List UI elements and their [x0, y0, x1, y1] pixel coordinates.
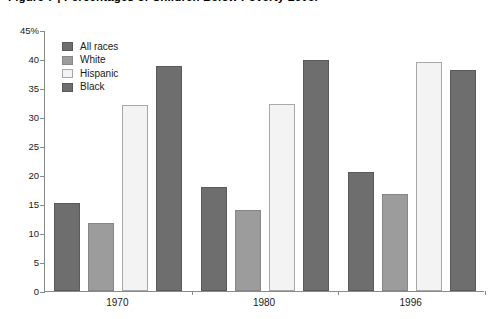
bar-hispanic-1996 — [416, 62, 442, 291]
y-axis-tick-mark — [40, 147, 45, 148]
bar-black-1970 — [156, 66, 182, 291]
y-axis-tick-mark — [40, 205, 45, 206]
bar-all-races-1996 — [348, 172, 374, 291]
legend-item-black[interactable]: Black — [62, 81, 118, 95]
y-axis-tick-label: 45% — [1, 26, 39, 36]
y-axis-tick-label: 25 — [1, 142, 39, 152]
legend-item-label: All races — [80, 42, 118, 52]
y-axis-tick-label: 5 — [1, 258, 39, 268]
y-axis-tick-label: 20 — [1, 171, 39, 181]
page-title: Figure 7 | Percentages of Children Below… — [8, 0, 318, 3]
y-axis-tick-mark — [40, 31, 45, 32]
legend-item-label: White — [80, 55, 106, 65]
x-axis-label-1980: 1980 — [253, 297, 275, 308]
legend-item-label: Hispanic — [80, 69, 118, 79]
bar-hispanic-1970 — [122, 105, 148, 291]
legend-item-label: Black — [80, 82, 104, 92]
legend-swatch-icon — [62, 56, 73, 65]
bar-hispanic-1980 — [269, 104, 295, 291]
legend-swatch-icon — [62, 69, 73, 78]
bar-all-races-1980 — [201, 187, 227, 291]
bar-black-1980 — [303, 60, 329, 291]
bar-white-1980 — [235, 210, 261, 291]
y-axis-tick-label: 15 — [1, 200, 39, 210]
x-axis-group-separator — [192, 291, 193, 295]
y-axis-tick-label: 0 — [1, 287, 39, 297]
y-axis-tick-label: 35 — [1, 84, 39, 94]
y-axis-tick-mark — [40, 118, 45, 119]
bar-black-1996 — [450, 70, 476, 291]
legend-item-hispanic[interactable]: Hispanic — [62, 67, 118, 81]
y-axis-tick-mark — [40, 176, 45, 177]
y-axis-tick-label: 10 — [1, 229, 39, 239]
y-axis-tick-mark — [40, 292, 45, 293]
y-axis-tick-mark — [40, 89, 45, 90]
x-axis-label-1996: 1996 — [400, 297, 422, 308]
x-axis-label-1970: 1970 — [106, 297, 128, 308]
legend-swatch-icon — [62, 83, 73, 92]
y-axis-tick-mark — [40, 234, 45, 235]
bar-all-races-1970 — [54, 203, 80, 291]
y-axis-tick-mark — [40, 60, 45, 61]
chart-legend: All racesWhiteHispanicBlack — [62, 40, 118, 94]
bar-white-1996 — [382, 194, 408, 291]
legend-swatch-icon — [62, 42, 73, 51]
x-axis-group-separator — [338, 291, 339, 295]
x-axis-end-tick — [485, 291, 486, 295]
poverty-level-bar-chart: Figure 7 | Percentages of Children Below… — [0, 0, 490, 319]
y-axis-tick-label: 30 — [1, 113, 39, 123]
legend-item-all-races[interactable]: All races — [62, 40, 118, 54]
y-axis-tick-mark — [40, 263, 45, 264]
legend-item-white[interactable]: White — [62, 54, 118, 68]
bar-white-1970 — [88, 223, 114, 291]
y-axis-tick-label: 40 — [1, 55, 39, 65]
